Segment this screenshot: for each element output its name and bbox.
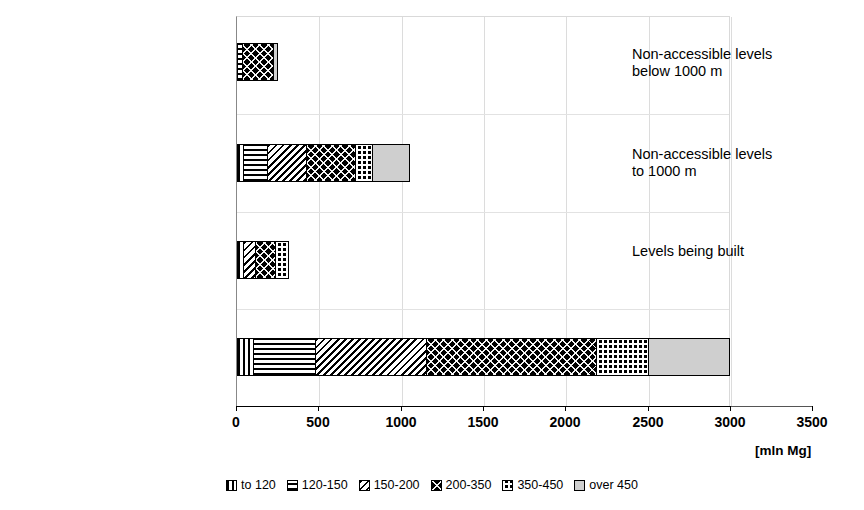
x-tick-label-1500: 1500 — [453, 414, 513, 430]
x-tick-label-2000: 2000 — [535, 414, 595, 430]
x-tick-label-500: 500 — [288, 414, 348, 430]
legend-label: over 450 — [589, 478, 638, 492]
category-label-non-accessible-below-1000: Non-accessible levels below 1000 m — [632, 46, 864, 80]
legend-label: 350-450 — [517, 478, 563, 492]
legend-item-350-450: 350-450 — [502, 478, 563, 492]
hgridline-2 — [237, 212, 729, 213]
legend-label: to 120 — [241, 478, 276, 492]
x-tick-2500 — [648, 406, 649, 411]
legend-label: 200-350 — [446, 478, 492, 492]
bar-segment-200-350 — [306, 144, 355, 182]
legend-label: 120-150 — [302, 478, 348, 492]
category-label-line2: to 1000 m — [632, 163, 858, 180]
x-axis-unit-label: [mln Mg] — [755, 443, 811, 458]
category-label-non-accessible-to-1000: Non-accessible levels to 1000 m — [632, 146, 864, 180]
legend-item-120-150: 120-150 — [287, 478, 348, 492]
legend-item-150-200: 150-200 — [359, 478, 420, 492]
legend-label: 150-200 — [374, 478, 420, 492]
bar-segment-150-200 — [243, 241, 255, 279]
x-tick-2000 — [565, 406, 566, 411]
bar-segment-200-350 — [242, 43, 273, 81]
legend-item-200-350: 200-350 — [431, 478, 492, 492]
bar-active-levels — [237, 338, 730, 376]
bar-segment-150-200 — [315, 338, 426, 376]
x-tick-label-1000: 1000 — [371, 414, 431, 430]
bar-segment-350-450 — [275, 241, 289, 279]
category-label-levels-being-built: Levels being built — [632, 243, 864, 260]
x-tick-label-3000: 3000 — [700, 414, 760, 430]
chart-legend: to 120 120-150 150-200 200-350 350-450 o… — [0, 478, 864, 492]
bar-segment-200-350 — [255, 241, 275, 279]
hgridline-1 — [237, 114, 729, 115]
category-label-line2: below 1000 m — [632, 63, 858, 80]
x-tick-3000 — [730, 406, 731, 411]
bar-segment-over-450 — [372, 144, 410, 182]
x-tick-0 — [236, 406, 237, 411]
category-label-line1: Non-accessible levels — [632, 146, 858, 163]
legend-swatch-200-350-icon — [431, 480, 442, 491]
bar-segment-150-200 — [267, 144, 306, 182]
x-tick-label-0: 0 — [206, 414, 266, 430]
legend-swatch-to-120-icon — [226, 480, 237, 491]
bar-segment-120-150 — [253, 338, 315, 376]
bar-segment-120-150 — [243, 144, 267, 182]
bar-non-accessible-below-1000 — [237, 43, 278, 81]
horizontal-stacked-bar-chart: Non-accessible levels below 1000 m Non-a… — [0, 0, 864, 510]
category-label-line1: Non-accessible levels — [632, 46, 858, 63]
bar-segment-over-450 — [273, 43, 278, 81]
hgridline-3 — [237, 309, 729, 310]
legend-item-over-450: over 450 — [574, 478, 638, 492]
legend-item-to-120: to 120 — [226, 478, 276, 492]
category-label-line1: Levels being built — [632, 243, 858, 260]
x-tick-1000 — [401, 406, 402, 411]
bar-non-accessible-to-1000 — [237, 144, 410, 182]
legend-swatch-120-150-icon — [287, 480, 298, 491]
bar-segment-to-120 — [237, 338, 253, 376]
bar-segment-350-450 — [355, 144, 372, 182]
legend-swatch-over-450-icon — [574, 480, 585, 491]
bar-segment-200-350 — [426, 338, 596, 376]
legend-swatch-150-200-icon — [359, 480, 370, 491]
bar-segment-over-450 — [648, 338, 730, 376]
x-tick-3500 — [812, 406, 813, 411]
x-tick-label-3500: 3500 — [782, 414, 842, 430]
x-tick-500 — [318, 406, 319, 411]
x-tick-label-2500: 2500 — [618, 414, 678, 430]
x-tick-1500 — [483, 406, 484, 411]
bar-levels-being-built — [237, 241, 289, 279]
legend-swatch-350-450-icon — [502, 480, 513, 491]
bar-segment-350-450 — [596, 338, 648, 376]
